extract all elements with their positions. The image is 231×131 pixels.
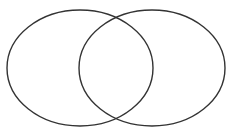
venn-diagram-svg: [0, 0, 231, 131]
venn-diagram: [0, 0, 231, 131]
venn-set-right: [79, 10, 225, 126]
venn-set-left: [7, 10, 153, 126]
